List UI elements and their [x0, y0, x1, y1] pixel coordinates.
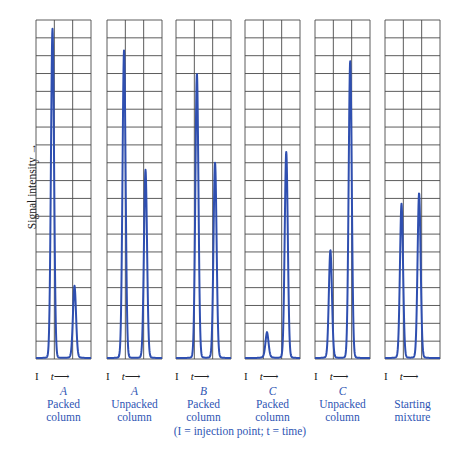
injection-point-marker: I [244, 370, 248, 382]
chromatogram-panel [107, 20, 162, 359]
caption-line2: column [95, 411, 174, 424]
y-axis-title: Signal intensity [26, 157, 38, 229]
time-arrow-icon: ⟶ [403, 370, 419, 382]
injection-point-marker: I [106, 370, 110, 382]
y-axis-label: Signal intensity → [20, 110, 40, 240]
time-axis-marker: It⟶ [106, 370, 141, 383]
chromatogram-panel [36, 20, 91, 359]
time-arrow-icon: ⟶ [263, 370, 279, 382]
injection-point-marker: I [384, 370, 388, 382]
time-arrow-icon: ⟶ [194, 370, 210, 382]
caption-line2: mixture [373, 411, 452, 424]
chromatogram-panel [385, 20, 440, 359]
time-arrow-icon: ⟶ [125, 370, 141, 382]
signal-trace [107, 50, 162, 358]
caption-line2: column [24, 411, 103, 424]
panel-caption: CUnpackedcolumn [303, 385, 382, 424]
caption-line1: Packed [24, 398, 103, 411]
caption-line1: Packed [164, 398, 243, 411]
caption-compound-letter: C [303, 385, 382, 398]
chromatogram-panel [245, 20, 300, 359]
panel-caption: APackedcolumn [24, 385, 103, 424]
caption-compound-letter: B [164, 385, 243, 398]
caption-line1: Unpacked [95, 398, 174, 411]
caption-compound-letter: A [95, 385, 174, 398]
panel-caption: AUnpackedcolumn [95, 385, 174, 424]
caption-compound-letter: A [24, 385, 103, 398]
injection-point-marker: I [35, 370, 39, 382]
caption-line1: Unpacked [303, 398, 382, 411]
footnote: (I = injection point; t = time) [150, 425, 330, 437]
caption-line1: Packed [233, 398, 312, 411]
caption-compound-letter: C [233, 385, 312, 398]
chromatogram-panel [315, 20, 370, 359]
chromatogram-panel [176, 20, 231, 359]
signal-trace [315, 61, 370, 358]
panel-caption: CPackedcolumn [233, 385, 312, 424]
time-axis-marker: It⟶ [314, 370, 349, 383]
injection-point-marker: I [314, 370, 318, 382]
time-axis-marker: It⟶ [244, 370, 279, 383]
y-axis-label-text: Signal intensity → [26, 126, 38, 246]
panel-caption: BPackedcolumn [164, 385, 243, 424]
caption-line2: column [303, 411, 382, 424]
panel-caption: Startingmixture [373, 398, 452, 424]
caption-line2: column [233, 411, 312, 424]
signal-trace [36, 29, 91, 358]
time-arrow-icon: ⟶ [54, 370, 70, 382]
signal-trace [245, 152, 300, 358]
caption-line2: column [164, 411, 243, 424]
time-axis-marker: It⟶ [384, 370, 419, 383]
time-arrow-icon: ⟶ [333, 370, 349, 382]
caption-line1: Starting [373, 398, 452, 411]
time-axis-marker: It⟶ [175, 370, 210, 383]
time-axis-marker: It⟶ [35, 370, 70, 383]
injection-point-marker: I [175, 370, 179, 382]
signal-trace [385, 193, 440, 358]
